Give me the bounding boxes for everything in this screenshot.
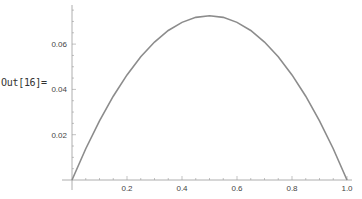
line-plot: 0.20.40.60.81.00.020.040.06 [0, 0, 362, 199]
y-tick-label: 0.02 [51, 131, 67, 140]
axes [62, 5, 352, 190]
x-tick-label: 0.2 [121, 184, 133, 193]
x-tick-label: 0.4 [176, 184, 188, 193]
x-tick-label: 1.0 [341, 184, 353, 193]
y-tick-label: 0.04 [51, 85, 67, 94]
data-curve [72, 16, 347, 180]
x-tick-label: 0.6 [231, 184, 243, 193]
tick-labels: 0.20.40.60.81.00.020.040.06 [51, 40, 353, 193]
y-tick-label: 0.06 [51, 40, 67, 49]
x-tick-label: 0.8 [286, 184, 298, 193]
